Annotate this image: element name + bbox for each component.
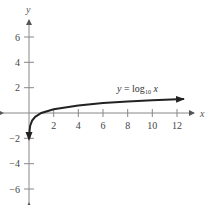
y-axis-label: y [25,4,31,15]
svg-text:6: 6 [101,120,106,131]
svg-text:10: 10 [147,120,157,131]
svg-text:12: 12 [172,120,182,131]
svg-text:4: 4 [15,57,20,68]
log10-curve [29,99,184,139]
svg-text:8: 8 [125,120,130,131]
svg-text:−4: −4 [9,158,20,169]
log-chart: x y 2 4 6 8 10 12 6 4 2 −2 −4 −6 y [0,0,209,205]
svg-text:2: 2 [15,82,20,93]
curve-down-arrow-icon [26,132,33,141]
curve-label: y = log10 x [116,83,158,95]
svg-text:2: 2 [51,120,56,131]
svg-text:−2: −2 [9,133,20,144]
x-axis-label: x [199,108,205,119]
svg-text:−6: −6 [9,184,20,195]
x-tick-labels: 2 4 6 8 10 12 [51,120,182,131]
svg-text:6: 6 [15,32,20,43]
svg-text:4: 4 [76,120,81,131]
